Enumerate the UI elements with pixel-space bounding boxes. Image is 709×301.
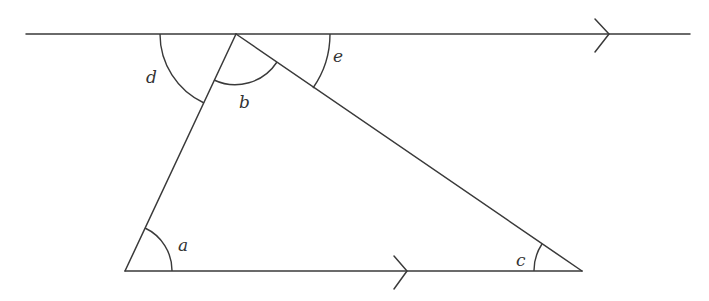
angle-b-arc bbox=[214, 62, 277, 85]
diagram-canvas: a b c d e bbox=[0, 0, 709, 301]
angle-e-label: e bbox=[333, 46, 343, 66]
bottom-parallel-arrow-icon bbox=[394, 256, 407, 289]
triangle-right-side bbox=[236, 34, 582, 271]
angle-a-label: a bbox=[178, 235, 188, 255]
angle-d-arc bbox=[160, 34, 204, 103]
geometry-diagram: a b c d e bbox=[0, 0, 709, 301]
angle-c-label: c bbox=[516, 250, 526, 270]
top-parallel-arrow-icon bbox=[595, 19, 609, 52]
angle-b-label: b bbox=[239, 92, 250, 112]
angle-e-arc bbox=[313, 34, 330, 88]
angle-d-label: d bbox=[146, 67, 157, 87]
angle-a-arc bbox=[145, 228, 172, 271]
angle-c-arc bbox=[534, 244, 542, 271]
